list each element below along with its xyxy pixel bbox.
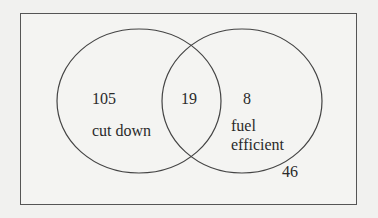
venn-circles [0,0,378,218]
fuel-efficient-label-line2: efficient [231,136,284,154]
outside-count: 46 [282,163,298,181]
cut-down-label: cut down [92,122,151,140]
intersection-count: 19 [181,90,197,108]
fuel-efficient-label-line1: fuel [231,117,256,135]
cut-down-only-count: 105 [92,90,116,108]
fuel-efficient-only-count: 8 [243,90,251,108]
